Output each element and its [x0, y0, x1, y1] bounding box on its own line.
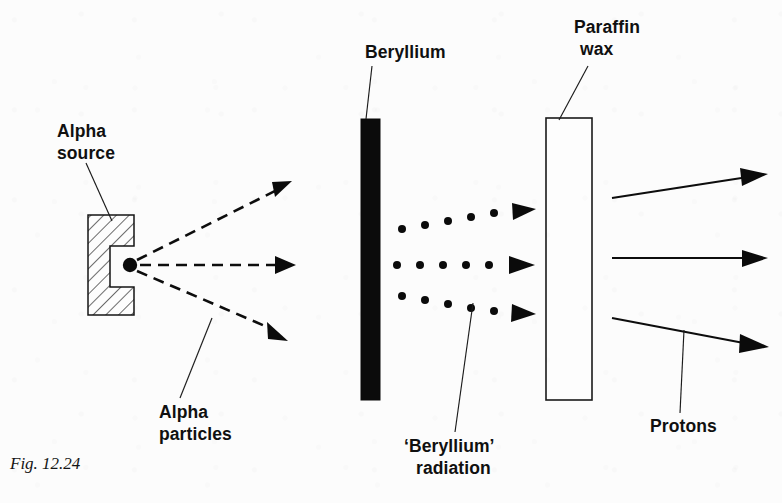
- alpha-ray-lower: [137, 271, 272, 329]
- alpha-particles-label-line1: Alpha: [159, 402, 208, 422]
- beryllium-radiation-bottom-arrowhead: [511, 304, 536, 322]
- alpha-particles-leader-line: [180, 318, 212, 398]
- proton-arrow-upper-arrowhead: [740, 168, 768, 186]
- beryllium-radiation-row-top: [398, 203, 536, 233]
- proton-arrow-lower-shaft: [612, 318, 749, 344]
- proton-arrow-lower-arrowhead: [739, 334, 769, 353]
- beryllium-leader-line: [366, 66, 372, 119]
- beryllium-radiation-top-arrowhead: [512, 203, 536, 220]
- proton-arrow-middle-arrowhead: [742, 250, 768, 267]
- alpha-ray-middle-arrowhead: [275, 256, 296, 274]
- diagram-canvas: Alpha source Alpha particles Beryllium ‘…: [0, 0, 782, 503]
- beryllium-radiation-row-middle: [393, 256, 535, 274]
- alpha-particle-rays: [137, 181, 296, 341]
- alpha-particles-label-line2: particles: [159, 424, 232, 444]
- beryllium-radiation-leader-line: [455, 303, 473, 432]
- alpha-source-label-line1: Alpha: [57, 121, 106, 141]
- paraffin-wax-label-line2: wax: [579, 39, 614, 59]
- alpha-source-label-line2: source: [57, 143, 115, 163]
- paraffin-wax-label-line1: Paraffin: [574, 17, 640, 37]
- alpha-ray-upper: [137, 190, 277, 260]
- beryllium-radiation-rays: [393, 203, 536, 322]
- proton-arrow-upper-shaft: [612, 177, 748, 198]
- alpha-source-leader-line: [86, 163, 112, 221]
- paraffin-wax-block: [546, 118, 592, 400]
- alpha-ray-upper-arrowhead: [272, 181, 292, 197]
- beryllium-radiation-row-bottom: [398, 292, 536, 322]
- beryllium-radiation-middle-arrowhead: [509, 256, 535, 274]
- beryllium-target-bar: [361, 119, 380, 400]
- paraffin-wax-leader-line: [559, 66, 588, 120]
- figure-caption: Fig. 12.24: [9, 454, 81, 473]
- protons-leader-line: [680, 330, 684, 413]
- protons-label: Protons: [650, 416, 717, 436]
- beryllium-label: Beryllium: [365, 42, 446, 62]
- alpha-ray-lower-arrowhead: [267, 322, 288, 341]
- alpha-source-emission-point: [123, 258, 137, 272]
- beryllium-radiation-label-line1: ‘Beryllium’: [404, 436, 495, 456]
- physics-diagram-figure: Alpha source Alpha particles Beryllium ‘…: [0, 0, 782, 503]
- proton-arrows: [612, 168, 769, 353]
- beryllium-radiation-label-line2: radiation: [416, 458, 491, 478]
